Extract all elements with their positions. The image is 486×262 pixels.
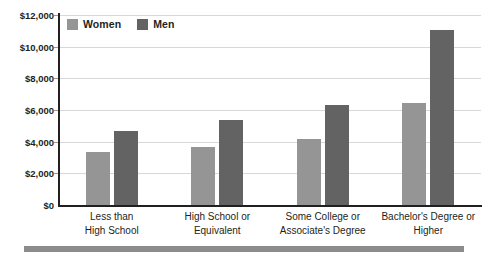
legend-item-women[interactable]: Women <box>67 18 121 30</box>
legend-swatch-icon <box>67 19 78 30</box>
y-axis-tick-label: $4,000 <box>0 136 54 147</box>
y-axis-tick-label: $8,000 <box>0 73 54 84</box>
bar-group <box>59 15 165 205</box>
x-axis-category-label: Bachelor's Degree orHigher <box>368 210 486 237</box>
category-label-line: Associate's Degree <box>262 224 384 238</box>
y-axis-tick-label: $12,000 <box>0 10 54 21</box>
bar-women <box>191 147 215 205</box>
legend-label: Men <box>153 18 174 30</box>
category-label-line: High School <box>51 224 173 238</box>
bar-chart: $0$2,000$4,000$6,000$8,000$10,000$12,000… <box>0 0 486 262</box>
x-axis-category-label: Less thanHigh School <box>51 210 173 237</box>
legend-item-men[interactable]: Men <box>137 18 174 30</box>
plot-area <box>59 15 481 205</box>
category-label-line: Bachelor's Degree or <box>368 210 486 224</box>
bar-men <box>219 120 243 205</box>
y-axis-tick-label: $10,000 <box>0 41 54 52</box>
bar-group <box>270 15 376 205</box>
legend-swatch-icon <box>137 19 148 30</box>
y-axis-tick-label: $2,000 <box>0 168 54 179</box>
bar-women <box>402 103 426 205</box>
category-label-line: Less than <box>51 210 173 224</box>
legend-label: Women <box>83 18 121 30</box>
chart-legend: WomenMen <box>67 18 175 30</box>
bar-men <box>114 131 138 205</box>
bar-men <box>325 105 349 205</box>
category-label-line: Equivalent <box>157 224 279 238</box>
y-axis-labels: $0$2,000$4,000$6,000$8,000$10,000$12,000 <box>0 15 54 205</box>
y-axis-tick-label: $6,000 <box>0 105 54 116</box>
bottom-rule-decoration <box>24 246 464 252</box>
category-label-line: Some College or <box>262 210 384 224</box>
x-axis-category-label: High School orEquivalent <box>157 210 279 237</box>
y-axis-tick-label: $0 <box>0 200 54 211</box>
x-axis-category-label: Some College orAssociate's Degree <box>262 210 384 237</box>
category-label-line: Higher <box>368 224 486 238</box>
x-axis-line <box>58 205 482 207</box>
bar-women <box>297 139 321 206</box>
x-axis-category-labels: Less thanHigh SchoolHigh School orEquiva… <box>59 210 481 250</box>
category-label-line: High School or <box>157 210 279 224</box>
y-axis-line <box>58 13 60 207</box>
bar-men <box>430 30 454 205</box>
bar-group <box>376 15 482 205</box>
bar-women <box>86 152 110 205</box>
bar-group <box>165 15 271 205</box>
